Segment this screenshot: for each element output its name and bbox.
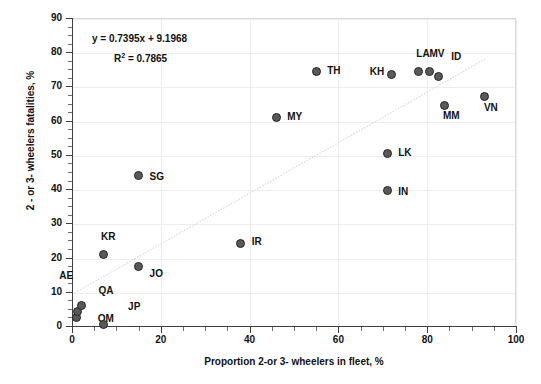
gridline-horizontal [72, 293, 515, 294]
data-point[interactable] [134, 171, 143, 180]
regression-equation: y = 0.7395x + 9.1968 [92, 30, 187, 47]
x-axis-minor-tick [449, 327, 450, 331]
x-axis-tick-label: 0 [52, 335, 92, 345]
x-axis-minor-tick [205, 327, 206, 331]
y-axis-minor-tick [68, 215, 72, 216]
y-axis-tick-label: 90 [36, 13, 62, 23]
y-axis-minor-tick [68, 78, 72, 79]
data-point[interactable] [383, 186, 392, 195]
data-point-label: MV [429, 49, 444, 59]
data-point-label: LK [398, 148, 411, 158]
y-axis-minor-tick [68, 112, 72, 113]
data-point[interactable] [99, 250, 108, 259]
data-point-label: JO [150, 269, 163, 279]
x-axis-tick [72, 327, 73, 333]
x-axis-tick-label: 40 [230, 335, 270, 345]
data-point-label: VN [484, 103, 498, 113]
y-axis-tick [66, 189, 72, 190]
y-axis-minor-tick [68, 146, 72, 147]
data-point-label: IR [252, 237, 262, 247]
x-axis-tick [516, 327, 517, 333]
data-point-label: ID [451, 52, 461, 62]
x-axis-tick [338, 327, 339, 333]
y-axis-minor-tick [68, 95, 72, 96]
y-axis-minor-tick [68, 44, 72, 45]
data-point-label: KH [370, 67, 384, 77]
y-axis-tick [66, 52, 72, 53]
x-axis-tick [250, 327, 251, 333]
data-point-label: IN [398, 187, 408, 197]
x-axis-title: Proportion 2-or 3- wheelers in fleet, % [72, 356, 516, 367]
y-axis-minor-tick [68, 61, 72, 62]
y-axis-tick [66, 18, 72, 19]
x-axis-minor-tick [472, 327, 473, 331]
data-point-label: MY [287, 112, 302, 122]
gridline-horizontal [72, 259, 515, 260]
x-axis-tick-label: 60 [318, 335, 358, 345]
x-axis-tick-label: 100 [496, 335, 536, 345]
gridline-vertical [516, 19, 517, 326]
y-axis-tick-label: 30 [36, 218, 62, 228]
gridline-vertical [427, 19, 428, 326]
data-point[interactable] [99, 320, 108, 329]
y-axis-tick [66, 258, 72, 259]
y-axis-minor-tick [68, 69, 72, 70]
x-axis-tick [427, 327, 428, 333]
y-axis-minor-tick [68, 172, 72, 173]
y-axis-title: 2 - or 3- wheelers fatalities, % [25, 41, 36, 241]
y-axis-minor-tick [68, 309, 72, 310]
y-axis-minor-tick [68, 206, 72, 207]
x-axis-minor-tick [361, 327, 362, 331]
x-axis-minor-tick [94, 327, 95, 331]
x-axis-minor-tick [116, 327, 117, 331]
y-axis-tick-label: 40 [36, 184, 62, 194]
x-axis-minor-tick [405, 327, 406, 331]
y-axis-tick [66, 223, 72, 224]
x-axis-minor-tick [494, 327, 495, 331]
x-axis-minor-tick [183, 327, 184, 331]
gridline-horizontal [72, 224, 515, 225]
y-axis-tick [66, 86, 72, 87]
data-point-label: JP [128, 302, 140, 312]
regression-r2: R2 = 0.7865 [114, 47, 187, 67]
y-axis-minor-tick [68, 300, 72, 301]
x-axis-minor-tick [294, 327, 295, 331]
y-axis-minor-tick [68, 249, 72, 250]
data-point[interactable] [134, 262, 143, 271]
y-axis-minor-tick [68, 266, 72, 267]
data-point[interactable] [425, 67, 434, 76]
x-axis-minor-tick [227, 327, 228, 331]
y-axis-tick-label: 20 [36, 253, 62, 263]
x-axis-minor-tick [139, 327, 140, 331]
y-axis-tick-label: 60 [36, 116, 62, 126]
y-axis-tick-label: 70 [36, 81, 62, 91]
regression-annotation: y = 0.7395x + 9.1968 R2 = 0.7865 [92, 30, 187, 67]
data-point-label: SG [150, 172, 164, 182]
x-axis-tick [161, 327, 162, 333]
y-axis-minor-tick [68, 232, 72, 233]
y-axis-tick-label: 80 [36, 47, 62, 57]
data-point[interactable] [312, 67, 321, 76]
y-axis-tick-label: 0 [36, 321, 62, 331]
y-axis-tick [66, 155, 72, 156]
y-axis-minor-tick [68, 129, 72, 130]
gridline-horizontal [72, 87, 515, 88]
gridline-horizontal [72, 190, 515, 191]
y-axis-minor-tick [68, 104, 72, 105]
data-point[interactable] [383, 149, 392, 158]
y-axis-tick-label: 50 [36, 150, 62, 160]
data-point[interactable] [434, 72, 443, 81]
gridline-horizontal [72, 19, 515, 20]
x-axis-tick-label: 20 [141, 335, 181, 345]
y-axis-tick [66, 292, 72, 293]
y-axis-tick-label: 10 [36, 287, 62, 297]
data-point-label: KR [101, 232, 115, 242]
x-axis-tick-label: 80 [407, 335, 447, 345]
y-axis-minor-tick [68, 163, 72, 164]
data-point[interactable] [272, 113, 281, 122]
data-point-label: TH [327, 66, 340, 76]
data-point-label: QA [98, 286, 113, 296]
x-axis-minor-tick [316, 327, 317, 331]
data-point[interactable] [414, 67, 423, 76]
data-point-label: LA [416, 49, 429, 59]
